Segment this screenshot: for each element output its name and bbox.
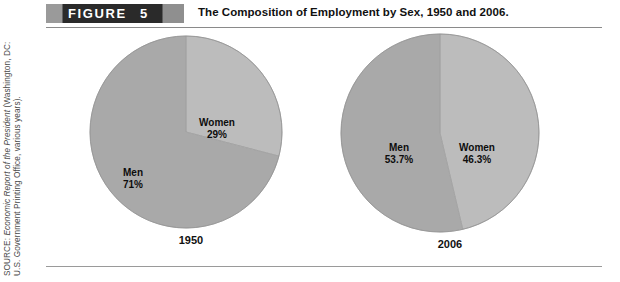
pie-chart-1950: Women 29% Men 71% 1950 — [86, 34, 296, 262]
pie-1950-women-percent: 29% — [186, 129, 248, 141]
source-note-line-1: SOURCE: Economic Report of the President… — [3, 42, 12, 276]
figure-number-badge: FIGURE 5 — [46, 4, 184, 23]
source-publication-title: Economic Report of the President — [3, 110, 12, 236]
pie-2006-label-women: Women 46.3% — [444, 142, 510, 165]
pie-2006-women-percent: 46.3% — [444, 154, 510, 166]
pie-2006-women-name: Women — [459, 142, 495, 153]
pie-1950-label-women: Women 29% — [186, 117, 248, 140]
pie-chart-2006: Men 53.7% Women 46.3% 2006 — [340, 32, 560, 262]
pie-1950-men-percent: 71% — [108, 179, 158, 191]
pie-1950-women-name: Women — [199, 117, 235, 128]
figure-header: FIGURE 5 The Composition of Employment b… — [46, 3, 602, 25]
pie-2006-caption: 2006 — [340, 238, 560, 250]
figure-container: SOURCE: Economic Report of the President… — [0, 0, 620, 282]
header-divider — [46, 27, 602, 28]
figure-badge-label: FIGURE — [68, 6, 127, 21]
source-label: SOURCE: — [3, 236, 12, 276]
source-publisher-location: (Washington, DC: — [3, 42, 12, 110]
pie-2006-men-percent: 53.7% — [372, 154, 426, 166]
pie-2006-label-men: Men 53.7% — [372, 142, 426, 165]
pie-1950-label-men: Men 71% — [108, 167, 158, 190]
figure-badge-number: 5 — [140, 6, 147, 21]
source-note: SOURCE: Economic Report of the President… — [0, 0, 30, 282]
pie-2006-men-name: Men — [389, 142, 409, 153]
pie-1950-caption: 1950 — [86, 234, 296, 246]
source-note-line-2: U.S. Government Printing Office, various… — [13, 96, 22, 276]
pie-2006-svg — [340, 32, 550, 234]
figure-title: The Composition of Employment by Sex, 19… — [198, 6, 509, 18]
pie-1950-men-name: Men — [123, 167, 143, 178]
footer-divider — [46, 266, 602, 267]
